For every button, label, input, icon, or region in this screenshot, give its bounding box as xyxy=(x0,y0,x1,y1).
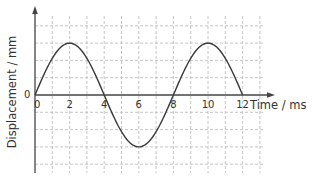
x-tick-label: 10 xyxy=(202,99,215,110)
x-axis-label: Time / ms xyxy=(249,98,307,112)
origin-y-label: 0 xyxy=(24,89,30,100)
x-tick-label: 12 xyxy=(236,99,249,110)
y-axis-arrow-icon xyxy=(32,6,38,14)
displacement-time-chart: 024681012 0 Time / ms Displacement / mm xyxy=(0,0,316,180)
axes xyxy=(32,6,275,173)
x-tick-label: 8 xyxy=(170,99,176,110)
x-tick-label: 2 xyxy=(66,99,72,110)
y-axis-label: Displacement / mm xyxy=(5,36,19,149)
x-tick-label: 0 xyxy=(34,99,40,110)
x-tick-label: 6 xyxy=(136,99,142,110)
x-axis-arrow-icon xyxy=(267,92,275,98)
x-tick-label: 4 xyxy=(101,99,107,110)
tick-labels: 024681012 xyxy=(34,99,249,110)
